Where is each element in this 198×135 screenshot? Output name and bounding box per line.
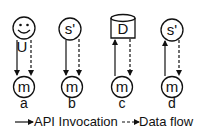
diagram-canvas: U m a s' m b D m c s' m d [0,0,198,135]
legend-api-invocation: API Invocation [34,114,118,129]
panel-d: s' m d [161,19,183,111]
module-m-text: m [116,78,129,95]
panel-label: a [20,95,28,111]
panel-b: s' m b [59,18,83,111]
database-node-text: D [118,20,129,37]
legend-data-flow: Data flow [139,114,194,129]
user-node-text: U [17,38,28,55]
panel-a: U m a [13,17,35,111]
module-m-text: m [66,78,79,95]
panel-label: c [119,95,126,111]
panel-c: D m c [111,15,135,112]
panel-label: b [68,95,76,111]
user-smiley-icon [13,17,35,39]
module-m-text: m [166,78,179,95]
service-node-text: s' [65,20,76,37]
module-m-text: m [18,78,31,95]
legend: API Invocation Data flow [15,114,194,129]
service-node-text: s' [167,21,178,38]
panel-label: d [168,95,176,111]
